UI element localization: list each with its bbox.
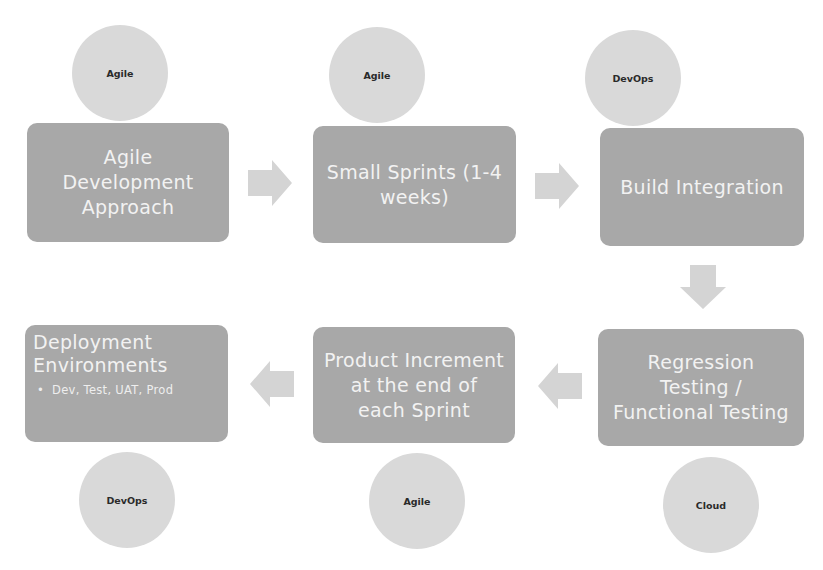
tag-circle-devops: DevOps — [79, 452, 175, 548]
arrow-right-icon — [535, 163, 579, 209]
tag-label: DevOps — [106, 495, 147, 506]
step-text-line: at the end of — [351, 373, 477, 398]
tag-circle-agile: Agile — [72, 25, 168, 121]
step-deployment-environments: Deployment Environments • Dev, Test, UAT… — [25, 325, 228, 442]
step-agile-development-approach: Agile Development Approach — [27, 123, 229, 242]
tag-circle-agile: Agile — [369, 453, 465, 549]
step-text-line: Approach — [82, 195, 175, 220]
step-regression-testing: Regression Testing / Functional Testing — [598, 329, 804, 446]
step-text-line: Regression — [648, 350, 755, 375]
step-text-line: Environments — [33, 354, 168, 377]
bullet-dot-icon: • — [37, 383, 52, 397]
step-text-line: Testing / — [660, 375, 742, 400]
bullet-text: Dev, Test, UAT, Prod — [52, 383, 173, 397]
step-text-line: Product Increment — [324, 348, 504, 373]
step-text-line: Development — [62, 170, 193, 195]
step-text-line: Agile — [104, 145, 153, 170]
step-build-integration: Build Integration — [600, 128, 804, 246]
tag-label: Agile — [363, 70, 390, 81]
arrow-left-icon — [250, 361, 294, 407]
arrow-right-icon — [248, 160, 292, 206]
arrow-down-icon — [680, 265, 726, 309]
tag-circle-agile: Agile — [329, 27, 425, 123]
step-text-line: Deployment — [33, 331, 152, 354]
tag-label: Agile — [106, 68, 133, 79]
tag-label: Cloud — [696, 500, 726, 511]
tag-label: Agile — [403, 496, 430, 507]
tag-circle-devops: DevOps — [585, 30, 681, 126]
step-text-line: each Sprint — [358, 398, 470, 423]
step-small-sprints: Small Sprints (1-4 weeks) — [313, 126, 516, 243]
step-text-line: Build Integration — [620, 175, 784, 200]
tag-label: DevOps — [612, 73, 653, 84]
step-text-line: weeks) — [380, 185, 449, 210]
arrow-left-icon — [538, 363, 582, 409]
step-text-line: Functional Testing — [613, 400, 789, 425]
tag-circle-cloud: Cloud — [663, 457, 759, 553]
step-product-increment: Product Increment at the end of each Spr… — [313, 327, 515, 443]
bullet-item: • Dev, Test, UAT, Prod — [37, 381, 173, 399]
step-text-line: Small Sprints (1-4 — [327, 160, 502, 185]
